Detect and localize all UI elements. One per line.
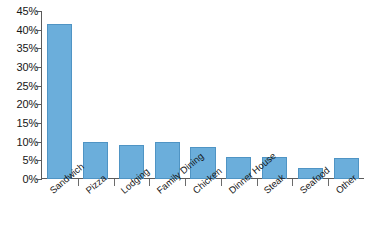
y-tick-mark [36, 11, 42, 12]
bar-slot [221, 11, 257, 179]
y-tick-label: 15% [0, 118, 38, 129]
y-tick-mark [36, 67, 42, 68]
plot-area [42, 11, 364, 179]
x-tick-mark [221, 179, 222, 186]
bar-slot [78, 11, 114, 179]
x-tick-mark [114, 179, 115, 186]
bar-slot [185, 11, 221, 179]
y-tick-label: 45% [0, 6, 38, 17]
y-tick-label: 35% [0, 43, 38, 54]
y-tick-mark [36, 123, 42, 124]
y-tick-label: 30% [0, 62, 38, 73]
x-tick-mark [328, 179, 329, 186]
bar-slot [292, 11, 328, 179]
bar[interactable] [83, 142, 108, 179]
y-tick-mark [36, 104, 42, 105]
bar-slot [42, 11, 78, 179]
y-tick-mark [36, 160, 42, 161]
bar-slot [328, 11, 364, 179]
y-tick-mark [36, 179, 42, 180]
y-tick-mark [36, 48, 42, 49]
y-tick-label: 40% [0, 24, 38, 35]
y-tick-label: 10% [0, 136, 38, 147]
y-tick-label: 20% [0, 99, 38, 110]
y-tick-label: 25% [0, 80, 38, 91]
y-tick-mark [36, 86, 42, 87]
x-tick-mark [185, 179, 186, 186]
bar-chart: 0%5%10%15%20%25%30%35%40%45% SandwichPiz… [0, 0, 366, 240]
y-tick-mark [36, 30, 42, 31]
bar-slot [114, 11, 150, 179]
y-tick-mark [36, 142, 42, 143]
y-axis: 0%5%10%15%20%25%30%35%40%45% [0, 0, 38, 240]
y-tick-label: 0% [0, 174, 38, 185]
bar-slot [149, 11, 185, 179]
x-tick-mark [78, 179, 79, 186]
x-tick-mark [292, 179, 293, 186]
y-tick-label: 5% [0, 155, 38, 166]
bar[interactable] [47, 24, 72, 179]
x-tick-mark [149, 179, 150, 186]
x-tick-mark [257, 179, 258, 186]
